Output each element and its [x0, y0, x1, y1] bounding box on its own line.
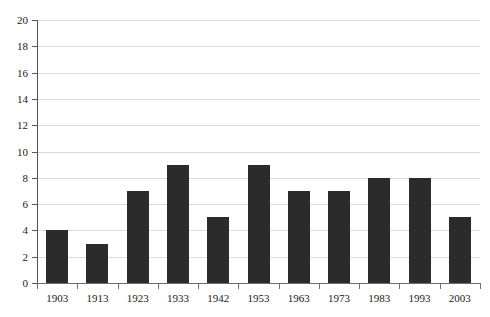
y-tick-10 — [32, 152, 37, 153]
y-tick-14 — [32, 99, 37, 100]
x-tick-2003 — [480, 284, 481, 289]
y-tick-6 — [32, 204, 37, 205]
y-axis-label-16: 16 — [6, 68, 28, 79]
y-axis-label-2: 2 — [6, 252, 28, 263]
y-axis-label-14: 14 — [6, 94, 28, 105]
y-tick-8 — [32, 178, 37, 179]
x-axis-label-1942: 1942 — [198, 292, 238, 304]
x-tick-1973 — [359, 284, 360, 289]
gridline-y-10 — [37, 152, 480, 153]
gridline-y-20 — [37, 20, 480, 21]
x-axis-label-1973: 1973 — [319, 292, 359, 304]
x-axis-label-1933: 1933 — [158, 292, 198, 304]
bar-1973 — [328, 191, 350, 283]
y-axis-label-8: 8 — [6, 173, 28, 184]
bar-1963 — [288, 191, 310, 283]
y-axis-label-4: 4 — [6, 225, 28, 236]
x-tick-1942 — [238, 284, 239, 289]
bar-1993 — [409, 178, 431, 283]
x-tick-1953 — [279, 284, 280, 289]
y-tick-2 — [32, 257, 37, 258]
bar-1953 — [248, 165, 270, 283]
bar-1942 — [207, 217, 229, 283]
y-tick-12 — [32, 125, 37, 126]
bar-1983 — [368, 178, 390, 283]
x-tick-1993 — [440, 284, 441, 289]
x-tick-1903 — [77, 284, 78, 289]
bar-1913 — [86, 244, 108, 283]
x-axis-label-1963: 1963 — [279, 292, 319, 304]
y-tick-20 — [32, 20, 37, 21]
x-axis-label-1953: 1953 — [238, 292, 278, 304]
y-tick-4 — [32, 230, 37, 231]
x-axis-label-1993: 1993 — [399, 292, 439, 304]
y-tick-18 — [32, 46, 37, 47]
x-tick-1983 — [399, 284, 400, 289]
gridline-y-16 — [37, 73, 480, 74]
x-axis-label-1913: 1913 — [77, 292, 117, 304]
y-tick-16 — [32, 73, 37, 74]
x-tick-start — [37, 284, 38, 289]
x-axis-label-1923: 1923 — [118, 292, 158, 304]
bar-chart: 02468101214161820 1903191319231933194219… — [0, 0, 490, 317]
bar-1923 — [127, 191, 149, 283]
x-axis-label-2003: 2003 — [440, 292, 480, 304]
bar-2003 — [449, 217, 471, 283]
gridline-y-18 — [37, 46, 480, 47]
x-axis-label-1903: 1903 — [37, 292, 77, 304]
y-axis-label-12: 12 — [6, 120, 28, 131]
y-axis-label-10: 10 — [6, 147, 28, 158]
x-tick-1963 — [319, 284, 320, 289]
bar-1933 — [167, 165, 189, 283]
x-tick-1923 — [158, 284, 159, 289]
x-axis-label-1983: 1983 — [359, 292, 399, 304]
gridline-y-12 — [37, 125, 480, 126]
x-tick-1913 — [118, 284, 119, 289]
bar-1903 — [46, 230, 68, 283]
y-axis-label-0: 0 — [6, 278, 28, 289]
plot-area — [37, 20, 480, 283]
y-axis-label-18: 18 — [6, 41, 28, 52]
y-axis-label-20: 20 — [6, 15, 28, 26]
gridline-y-14 — [37, 99, 480, 100]
x-tick-1933 — [198, 284, 199, 289]
x-axis-line — [37, 283, 481, 284]
y-axis-line — [37, 20, 38, 284]
y-axis-label-6: 6 — [6, 199, 28, 210]
